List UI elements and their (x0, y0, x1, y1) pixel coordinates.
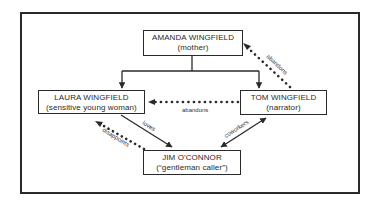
node-role: (sensitive young woman) (39, 103, 144, 113)
arrowhead-icon (148, 99, 155, 105)
edge-label: loves (141, 120, 156, 133)
edge-label: abandons (265, 53, 288, 75)
node-role: (mother) (144, 43, 242, 53)
node-tom-wingfield: TOM WINGFIELD (narrator) (240, 90, 327, 115)
node-name: LAURA WINGFIELD (39, 93, 144, 103)
node-role: (narrator) (241, 103, 326, 113)
edge-tom-abandons-laura: abandons (148, 99, 238, 113)
node-jim-oconnor: JIM O'CONNOR (“gentleman caller”) (143, 150, 241, 175)
edge-label: abandons (182, 107, 208, 113)
node-name: JIM O'CONNOR (144, 153, 240, 163)
edge-amanda-children (122, 56, 259, 88)
edge-label: disappoints (101, 127, 130, 148)
edge-tom-jim-coworkers: coworkers (221, 118, 266, 147)
node-laura-wingfield: LAURA WINGFIELD (sensitive young woman) (38, 90, 145, 114)
edge-label: coworkers (223, 119, 249, 139)
node-role: (“gentleman caller”) (144, 163, 240, 173)
arrowhead-icon (243, 43, 251, 50)
node-amanda-wingfield: AMANDA WINGFIELD (mother) (143, 30, 243, 56)
arrowhead-icon (95, 121, 103, 127)
node-name: AMANDA WINGFIELD (144, 33, 242, 43)
node-name: TOM WINGFIELD (241, 93, 326, 103)
edge-tom-abandons-amanda: abandons (243, 43, 290, 87)
